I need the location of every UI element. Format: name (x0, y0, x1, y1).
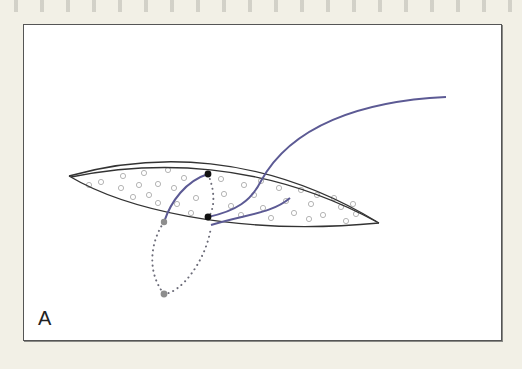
panel-label: A (38, 308, 51, 328)
diagram-canvas (24, 25, 501, 340)
suture-threads (164, 97, 446, 225)
left-suture-arc (164, 174, 208, 222)
figure-panel: A (23, 24, 502, 341)
wound-lens-outline (69, 162, 379, 227)
black-knot-lower (205, 214, 212, 221)
cropped-caption-strip (0, 0, 522, 12)
black-knot-upper (205, 171, 212, 178)
short-suture-tail (211, 198, 290, 225)
dotted-loop (152, 174, 213, 294)
gray-entry-point-upper (161, 219, 167, 225)
gray-entry-point-lower (161, 291, 168, 298)
